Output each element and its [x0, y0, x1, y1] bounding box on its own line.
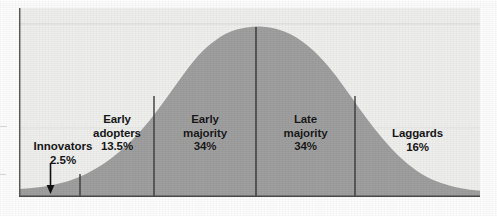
chart-plot-area: Early adopters 13.5% Early majority 34% … [19, 8, 480, 197]
adoption-curve-figure: Early adopters 13.5% Early majority 34% … [0, 0, 497, 216]
margin-mark-upper [0, 126, 7, 127]
segment-value: 16% [355, 141, 480, 155]
segment-value: 34% [256, 140, 355, 154]
segment-label-laggards: Laggards 16% [355, 127, 480, 154]
segment-label-early-majority: Early majority 34% [154, 113, 256, 154]
bell-curve-svg [19, 8, 480, 197]
segment-label-late-majority: Late majority 34% [256, 113, 355, 154]
scan-tone-overlay [19, 8, 480, 197]
segment-line2: adopters [80, 127, 154, 141]
innovators-name: Innovators [19, 139, 107, 153]
innovators-value: 2.5% [19, 153, 107, 167]
innovators-callout: Innovators 2.5% [19, 139, 107, 167]
down-arrow-icon [44, 163, 57, 195]
margin-mark-lower [0, 174, 6, 175]
segment-value: 34% [154, 140, 256, 154]
segment-line2: majority [154, 127, 256, 141]
segment-line1: Early [80, 113, 154, 127]
segment-line1: Late [256, 113, 355, 127]
segment-line1: Laggards [355, 127, 480, 141]
segment-line1: Early [154, 113, 256, 127]
segment-line2: majority [256, 127, 355, 141]
